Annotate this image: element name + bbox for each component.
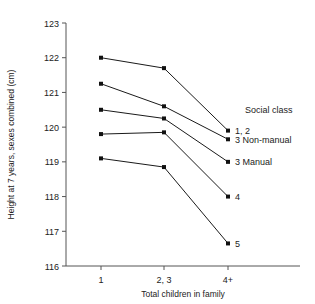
y-axis-tick-label: 117 (45, 227, 59, 237)
data-point-marker (226, 195, 230, 199)
data-point-marker (162, 104, 166, 108)
data-point-marker (162, 165, 166, 169)
data-point-marker (162, 130, 166, 134)
y-axis-tick-label: 122 (44, 53, 59, 63)
series-end-label-1: 3 Non-manual (235, 135, 292, 145)
data-point-marker (226, 129, 230, 133)
legend-title: Social class (245, 105, 293, 115)
y-axis-tick-label: 119 (45, 157, 59, 167)
data-point-marker (99, 108, 103, 112)
y-axis-tick-label: 116 (45, 262, 59, 272)
chart-canvas: 11611711811912012112212312, 34+Total chi… (0, 0, 315, 304)
x-axis-title: Total children in family (141, 289, 225, 299)
y-axis-tick-label: 118 (45, 192, 59, 202)
data-point-marker (162, 66, 166, 70)
data-point-marker (226, 137, 230, 141)
data-point-marker (99, 132, 103, 136)
y-axis-tick-label: 121 (44, 88, 59, 98)
data-point-marker (226, 160, 230, 164)
data-point-marker (226, 241, 230, 245)
x-axis-tick-label: 2, 3 (156, 275, 171, 285)
series-end-label-2: 3 Manual (235, 157, 272, 167)
data-point-marker (99, 82, 103, 86)
x-axis-tick-label: 1 (98, 275, 103, 285)
x-axis-tick-label: 4+ (223, 275, 233, 285)
data-point-marker (99, 156, 103, 160)
y-axis-tick-label: 120 (44, 123, 59, 133)
data-point-marker (162, 116, 166, 120)
data-point-marker (99, 56, 103, 60)
y-axis-tick-label: 123 (44, 19, 59, 29)
chart-figure: 11611711811912012112212312, 34+Total chi… (0, 0, 315, 304)
series-end-label-4: 5 (235, 239, 240, 249)
y-axis-title: Height at 7 years, sexes combined (cm) (6, 69, 16, 219)
series-line-3 (101, 132, 228, 196)
series-line-4 (101, 158, 228, 243)
series-end-label-3: 4 (235, 192, 240, 202)
